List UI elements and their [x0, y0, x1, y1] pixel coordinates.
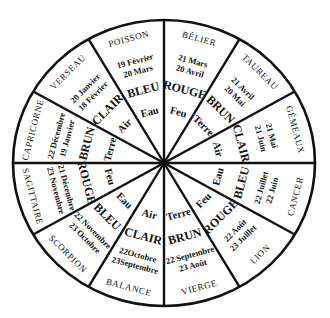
sign-color: BRUN [166, 225, 203, 247]
sign-name: GÉMEAUX [284, 105, 306, 155]
sign-name: CANCER [285, 176, 305, 217]
sign-color: BLEU [230, 165, 252, 201]
sign-name: POISSON [107, 28, 150, 48]
sign-name: BALANCE [105, 276, 153, 298]
sign-element: Air [211, 141, 226, 159]
sign-element: Terre [102, 136, 119, 163]
sign-name: LION [248, 242, 272, 266]
sign-color: BRUN [76, 125, 98, 162]
sign-color: ROUGE [162, 77, 208, 102]
sign-element: Air [115, 116, 134, 135]
sign-element: Feu [194, 190, 214, 210]
zodiac-wheel: BÉLIER21 Mars20 AvrilROUGEFeuTAUREAU21 A… [0, 0, 330, 318]
sign-element: Eau [139, 104, 159, 119]
sign-element: Eau [210, 166, 225, 186]
sign-element: Eau [114, 190, 135, 211]
sector-dividers [13, 20, 315, 306]
sign-color: CLAIR [230, 123, 254, 164]
sign-name: BÉLIER [181, 29, 218, 48]
sign-name: VIERGE [180, 278, 218, 297]
sign-element: Feu [169, 104, 188, 119]
sign-element: Terre [191, 113, 216, 138]
sign-element: Air [141, 207, 159, 222]
sign-element: Feu [102, 167, 117, 186]
sign-color: ROUGE [74, 160, 99, 206]
sign-element: Terre [165, 206, 192, 223]
sign-color: BLEU [126, 79, 162, 101]
sign-color: CLAIR [123, 224, 164, 248]
